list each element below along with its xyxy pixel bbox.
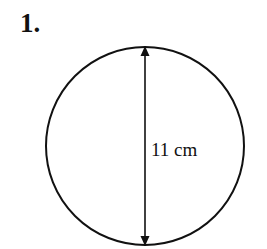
circle-diagram xyxy=(0,0,267,249)
diameter-label: 11 cm xyxy=(151,140,197,159)
